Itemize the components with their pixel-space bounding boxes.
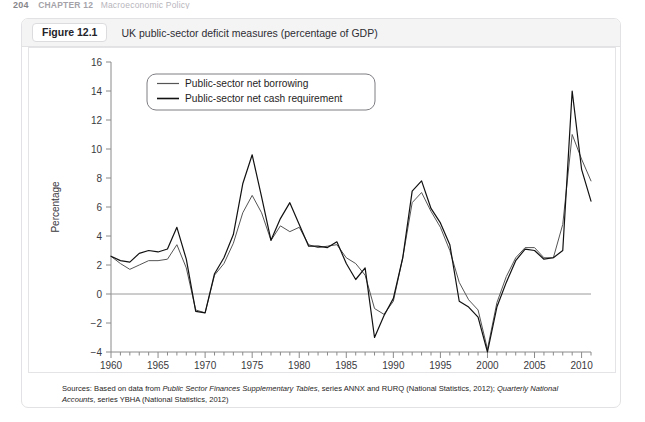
x-tick-label: 1965 <box>147 360 170 371</box>
y-axis-title: Percentage <box>50 181 61 233</box>
source-prefix: Sources: Based on data from <box>62 384 162 393</box>
source-mid-1: , series ANNX and RURQ (National Statist… <box>318 384 497 393</box>
y-tick-label: 10 <box>91 144 103 155</box>
source-mid-2: , series YBHA (National Statistics, 2012… <box>93 395 228 404</box>
chapter-title: Macroeconomic Policy <box>101 0 190 9</box>
x-tick-label: 1990 <box>382 360 405 371</box>
x-tick-label: 1995 <box>429 360 452 371</box>
y-tick-label: 16 <box>91 57 103 68</box>
source-italic-1: Public Sector Finances Supplementary Tab… <box>162 384 317 393</box>
y-tick-label: −4 <box>91 347 103 358</box>
line-chart: −4−20246810121416Percentage1960196519701… <box>29 48 615 372</box>
x-tick-label: 1975 <box>241 360 264 371</box>
y-tick-label: 6 <box>96 202 102 213</box>
chapter-number: CHAPTER 12 <box>38 0 93 9</box>
figure-caption-bar: Figure 12.1 UK public-sector deficit mea… <box>22 19 620 47</box>
x-tick-label: 1980 <box>288 360 311 371</box>
x-tick-label: 1985 <box>335 360 358 371</box>
y-tick-label: 4 <box>96 231 102 242</box>
figure-card: Figure 12.1 UK public-sector deficit mea… <box>21 18 621 408</box>
legend-label-1: Public-sector net borrowing <box>185 78 309 89</box>
y-tick-label: −2 <box>91 318 103 329</box>
figure-source-note: Sources: Based on data from Public Secto… <box>62 383 582 406</box>
series-line-2 <box>111 91 591 352</box>
legend-label-2: Public-sector net cash requirement <box>185 93 343 104</box>
x-tick-label: 1970 <box>194 360 217 371</box>
x-tick-label: 2010 <box>570 360 593 371</box>
y-tick-label: 8 <box>96 173 102 184</box>
figure-caption-title: UK public-sector deficit measures (perce… <box>121 27 377 39</box>
y-tick-label: 12 <box>91 115 103 126</box>
series-line-1 <box>111 135 591 350</box>
x-tick-label: 2000 <box>476 360 499 371</box>
y-tick-label: 2 <box>96 260 102 271</box>
page-running-header: 204 CHAPTER 12 Macroeconomic Policy <box>13 0 190 9</box>
figure-number-badge: Figure 12.1 <box>32 23 107 43</box>
y-tick-label: 0 <box>96 289 102 300</box>
x-tick-label: 1960 <box>100 360 123 371</box>
chart-plot-frame: −4−20246810121416Percentage1960196519701… <box>28 47 616 373</box>
x-tick-label: 2005 <box>523 360 546 371</box>
y-tick-label: 14 <box>91 86 103 97</box>
page-folio: 204 <box>13 0 29 9</box>
